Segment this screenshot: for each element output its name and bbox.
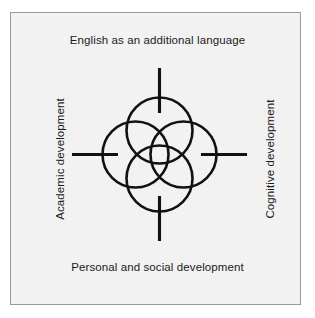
label-personal-and-social-development: Personal and social development (0, 262, 315, 274)
figure-page: English as an additional language Person… (0, 0, 315, 318)
label-academic-development: Academic development (55, 98, 67, 220)
label-english-as-an-additional-language: English as an additional language (0, 35, 315, 47)
label-cognitive-development: Cognitive development (265, 99, 277, 218)
